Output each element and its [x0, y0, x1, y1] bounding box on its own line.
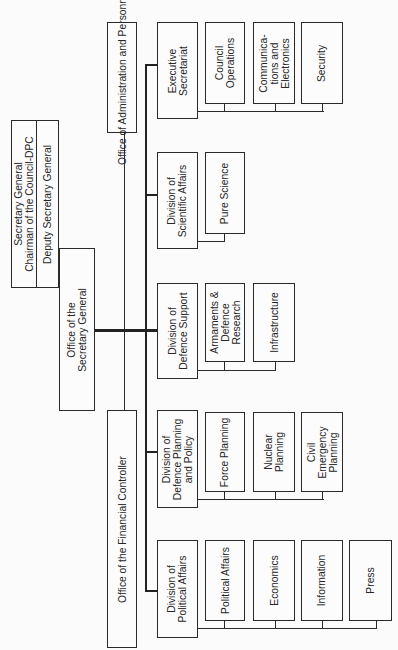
unit-label: Press: [365, 567, 376, 593]
office-of-secretary-general-label: Office of the Secretary General: [66, 288, 88, 372]
unit-armaments-defence-research: Armaments & Defence Research: [205, 283, 245, 362]
tick-armaments: [224, 362, 225, 371]
tick-economics: [275, 621, 276, 629]
division-label: Division of Defence Support: [167, 292, 189, 369]
tick-press: [376, 621, 377, 629]
office-admin-personnel-label: Office of Administration and Personnel: [117, 0, 128, 165]
unit-council-operations: Council Operations: [205, 22, 245, 104]
secretary-general-box: Secretary General Chairman of the Counci…: [11, 120, 37, 288]
unit-information: Information: [301, 540, 343, 621]
division-political-affairs: Division of Political Affairs: [157, 540, 198, 638]
bus-def-planning: [197, 499, 324, 500]
deputy-secretary-general-label: Deputy Secretary General: [42, 144, 53, 263]
office-admin-personnel-box: Office of Administration and Personnel: [107, 22, 137, 133]
division-label: Executive Secretariat: [167, 46, 189, 96]
unit-infrastructure: Infrastructure: [253, 283, 295, 362]
unit-label: Economics: [269, 555, 280, 605]
secretary-general-label: Secretary General Chairman of the Counci…: [13, 136, 35, 272]
offices-connector: [124, 133, 125, 411]
tick-council-ops: [224, 104, 225, 112]
bus-exec-sec: [197, 111, 324, 112]
tick-civil-emergency: [322, 492, 323, 500]
divisions-trunk: [145, 64, 147, 592]
unit-label: Information: [317, 555, 328, 607]
division-label: Division of Political Affairs: [167, 556, 189, 623]
office-of-secretary-general-box: Office of the Secretary General: [59, 248, 95, 411]
tick-information: [322, 621, 323, 629]
unit-label: Nuclear Planning: [263, 432, 285, 472]
unit-label: Pure Science: [220, 162, 231, 223]
unit-label: Communica- tions and Electronics: [258, 34, 291, 92]
bus-sci-affairs: [197, 241, 224, 242]
tick-nuclear-planning: [275, 492, 276, 500]
unit-press: Press: [349, 540, 392, 621]
deputy-secretary-general-box: Deputy Secretary General: [36, 120, 59, 288]
division-defence-planning-policy: Division of Defence Planning and Policy: [157, 410, 198, 508]
office-financial-controller-label: Office of the Financial Controller: [117, 456, 128, 603]
tick-force-planning: [224, 492, 225, 500]
unit-label: Council Operations: [214, 38, 236, 88]
tick-political-affairs: [224, 621, 225, 629]
unit-nuclear-planning: Nuclear Planning: [253, 412, 295, 492]
unit-label: Force Planning: [220, 417, 231, 486]
unit-political-affairs: Political Affairs: [205, 540, 245, 621]
unit-economics: Economics: [253, 540, 295, 621]
division-label: Division of Scientific Affairs: [167, 164, 189, 237]
unit-communications-electronics: Communica- tions and Electronics: [253, 22, 295, 104]
unit-force-planning: Force Planning: [205, 412, 245, 492]
tick-pure-science: [224, 234, 225, 242]
unit-label: Security: [316, 44, 327, 81]
unit-label: Civil Emergency Planning: [306, 426, 339, 478]
sg-to-trunk-connector: [95, 329, 157, 332]
unit-label: Political Affairs: [220, 547, 231, 614]
bus-def-support: [197, 370, 276, 371]
unit-security: Security: [301, 22, 343, 104]
tick-comms: [275, 104, 276, 112]
tick-security: [322, 104, 323, 112]
unit-label: Armaments & Defence Research: [209, 291, 242, 353]
unit-pure-science: Pure Science: [205, 152, 245, 234]
division-scientific-affairs: Division of Scientific Affairs: [157, 152, 198, 249]
unit-civil-emergency-planning: Civil Emergency Planning: [301, 412, 343, 492]
unit-label: Infrastructure: [269, 292, 280, 353]
tick-infrastructure: [275, 362, 276, 371]
division-defence-support: Division of Defence Support: [157, 283, 198, 379]
division-label: Division of Defence Planning and Policy: [161, 418, 194, 499]
office-financial-controller-box: Office of the Financial Controller: [107, 410, 137, 648]
division-executive-secretariat: Executive Secretariat: [157, 22, 198, 119]
